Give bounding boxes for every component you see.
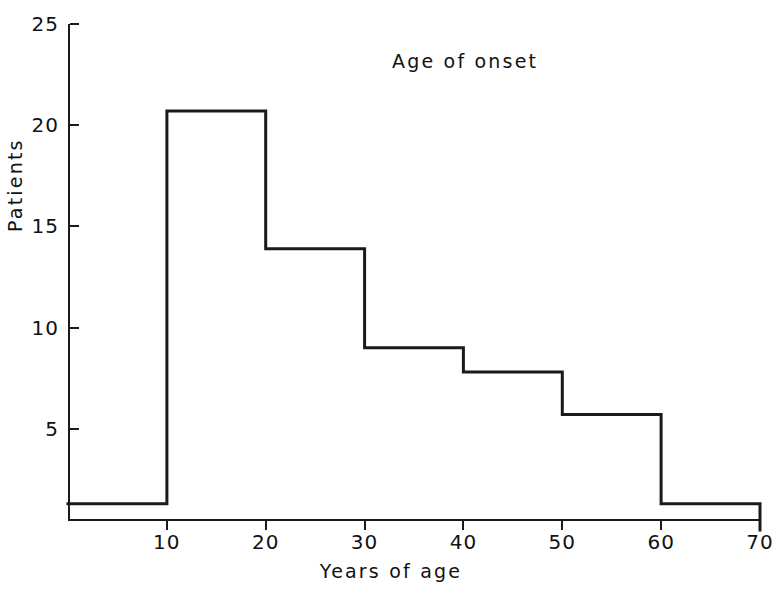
y-axis-label: Patients bbox=[6, 138, 25, 232]
x-tick-mark bbox=[660, 521, 662, 530]
plot-area: 510152025 10203040506070 bbox=[68, 24, 760, 521]
x-axis-label: Years of age bbox=[0, 562, 782, 581]
x-tick-label: 10 bbox=[153, 532, 180, 552]
x-tick-mark bbox=[364, 521, 366, 530]
x-tick-mark bbox=[166, 521, 168, 530]
chart-figure: Age of onset Patients Years of age 51015… bbox=[0, 0, 782, 601]
histogram-step-outline bbox=[68, 24, 760, 521]
x-tick-label: 60 bbox=[647, 532, 674, 552]
y-tick-label: 5 bbox=[45, 419, 59, 439]
x-tick-label: 40 bbox=[450, 532, 477, 552]
x-tick-label: 70 bbox=[746, 532, 773, 552]
x-tick-label: 30 bbox=[351, 532, 378, 552]
x-tick-mark bbox=[265, 521, 267, 530]
x-tick-label: 20 bbox=[252, 532, 279, 552]
x-tick-label: 50 bbox=[549, 532, 576, 552]
y-tick-label: 25 bbox=[32, 14, 59, 34]
x-tick-mark bbox=[462, 521, 464, 530]
x-tick-mark bbox=[561, 521, 563, 530]
y-tick-label: 15 bbox=[32, 216, 59, 236]
y-tick-label: 10 bbox=[32, 318, 59, 338]
y-tick-label: 20 bbox=[32, 115, 59, 135]
